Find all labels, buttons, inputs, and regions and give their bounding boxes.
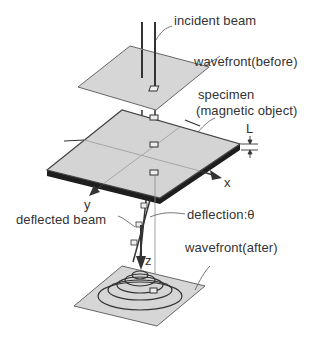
y-axis-label: y — [84, 198, 91, 211]
beam-spot-2 — [150, 142, 158, 147]
wavefront-before-label: wavefront(before) — [194, 55, 298, 68]
diagram-canvas — [0, 0, 325, 340]
x-axis-label: x — [224, 176, 231, 189]
deflection-label: deflection:θ — [187, 208, 255, 221]
beam-spot-before — [149, 86, 159, 91]
specimen-label: specimen — [198, 88, 254, 101]
wavefront-after-plane — [74, 266, 205, 326]
thickness-label: L — [246, 122, 253, 135]
z-axis-label: z — [145, 254, 152, 267]
thickness-marker — [241, 136, 258, 158]
beam-spot-3 — [150, 170, 158, 175]
beam-spot-after — [150, 288, 157, 293]
wavefront-after-label: wavefront(after) — [185, 241, 278, 254]
incident-beam-label: incident beam — [174, 14, 256, 27]
beam-spot-1 — [150, 115, 158, 120]
x-axis-arrow — [200, 170, 222, 180]
wavefront-before-plane — [78, 46, 209, 110]
deflected-beam-label: deflected beam — [16, 213, 106, 226]
magnetic-object-label: (magnetic object) — [196, 104, 297, 117]
